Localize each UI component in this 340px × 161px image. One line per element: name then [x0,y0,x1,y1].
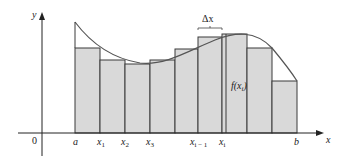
rectangle-3 [125,64,150,133]
rectangle-2 [100,60,125,133]
tick-label-x1: x1 [96,136,105,149]
rectangle-6 [198,37,222,133]
tick-label-xim1: xi − 1 [189,136,208,149]
rectangle-9 [272,81,297,133]
y-axis-label: y [31,9,37,20]
rectangle-5 [175,49,198,133]
delta-x-bracket [198,26,222,30]
rectangle-4 [150,60,175,133]
tick-label-x2: x2 [120,136,129,149]
rectangle-1 [75,48,100,133]
tick-label-x3: x3 [145,136,154,149]
delta-x-label: Δx [202,13,213,24]
tick-label-a: a [73,136,78,147]
x-axis-arrow-icon [316,130,324,136]
y-axis-arrow-icon [39,12,45,20]
tick-labels: a x1 x2 x3 xi − 1 xi b [73,136,299,149]
tick-label-b: b [294,136,299,147]
riemann-sum-diagram: y x 0 a x1 x2 x3 xi − 1 xi b Δx f(xi) [0,0,340,161]
x-axis-label: x [325,134,331,145]
origin-label: 0 [32,135,37,146]
tick-label-xi: xi [218,136,225,149]
riemann-rectangles [75,34,297,133]
rectangle-8 [247,48,272,133]
